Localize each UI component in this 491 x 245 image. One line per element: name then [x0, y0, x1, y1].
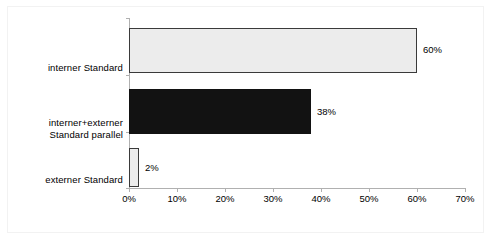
x-axis-tick: [177, 188, 178, 192]
category-label-interner-standard: interner Standard: [10, 62, 123, 74]
x-axis-tick-label: 40%: [311, 193, 330, 204]
x-axis-tick: [129, 188, 130, 192]
bar-interner-externer-standard-parallel: [129, 89, 311, 134]
category-label-line: Standard parallel: [10, 129, 123, 141]
x-axis-tick: [321, 188, 322, 192]
data-label-interner-externer-standard-parallel: 38%: [317, 106, 336, 117]
data-label-interner-standard: 60%: [423, 44, 442, 55]
x-axis-tick: [273, 188, 274, 192]
bar-externer-standard: [129, 148, 139, 187]
x-axis-tick-label: 0%: [122, 193, 136, 204]
value-axis-tick: [126, 18, 130, 19]
category-label-interner-externer-standard-parallel: interner+externer Standard parallel: [10, 117, 123, 141]
bar-chart: interner Standard interner+externer Stan…: [0, 0, 491, 245]
x-axis-tick-label: 50%: [359, 193, 378, 204]
x-axis-tick-label: 30%: [263, 193, 282, 204]
bar-interner-standard: [129, 28, 417, 73]
category-label-externer-standard: externer Standard: [10, 174, 123, 186]
data-label-externer-standard: 2%: [145, 162, 159, 173]
x-axis-tick-labels: 0% 10% 20% 30% 40% 50% 60% 70%: [129, 193, 469, 209]
x-axis-tick: [417, 188, 418, 192]
category-label-line: interner Standard: [10, 62, 123, 74]
category-axis-line: [129, 188, 466, 189]
value-axis-tick: [126, 75, 130, 76]
x-axis-tick-label: 20%: [215, 193, 234, 204]
x-axis-tick-label: 70%: [455, 193, 474, 204]
plot-area: 60% 38% 2%: [129, 18, 465, 188]
x-axis-tick: [465, 188, 466, 192]
category-label-line: externer Standard: [10, 174, 123, 186]
x-axis-tick: [369, 188, 370, 192]
category-axis-labels: interner Standard interner+externer Stan…: [10, 18, 126, 188]
x-axis-tick-label: 60%: [407, 193, 426, 204]
x-axis-tick: [225, 188, 226, 192]
category-label-line: interner+externer: [10, 117, 123, 129]
x-axis-tick-label: 10%: [167, 193, 186, 204]
